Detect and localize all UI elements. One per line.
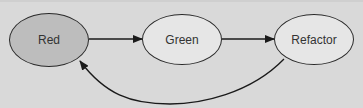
edge-refactor-to-red (80, 59, 284, 104)
node-red-label: Red (38, 33, 60, 47)
tdd-cycle-diagram: Red Green Refactor (0, 0, 363, 108)
node-red: Red (9, 13, 89, 67)
node-green-label: Green (165, 33, 198, 47)
node-green: Green (142, 14, 222, 65)
node-refactor-label: Refactor (291, 33, 336, 47)
node-refactor: Refactor (274, 14, 354, 65)
